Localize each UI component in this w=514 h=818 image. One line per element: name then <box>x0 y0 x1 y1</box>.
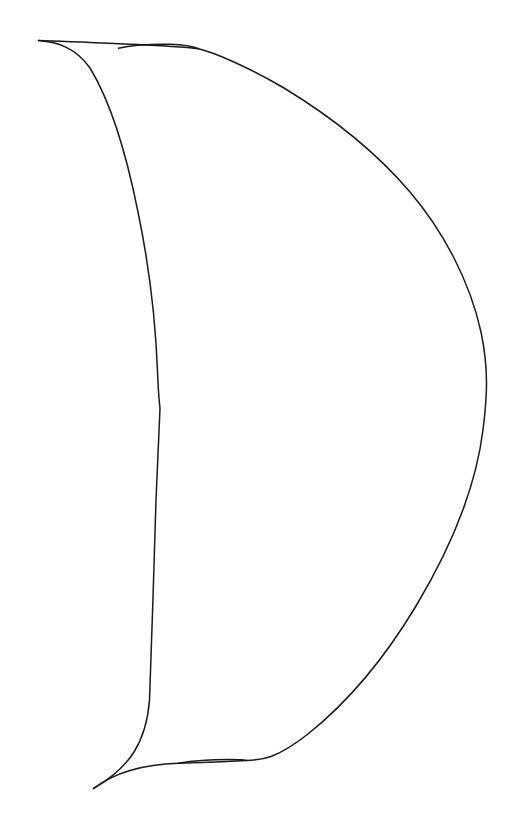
drawing-canvas: Leaf-shaped contour line drawing Elongat… <box>0 0 514 818</box>
line-drawing-figure <box>0 0 514 818</box>
canvas-background <box>0 0 514 818</box>
